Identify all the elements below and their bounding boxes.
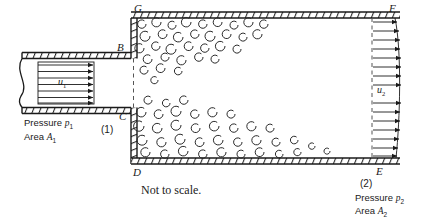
pipe-break-edge xyxy=(19,59,23,108)
point-label-D: D xyxy=(133,166,141,180)
inlet-area-subscript: 1 xyxy=(53,137,57,144)
section-label-2: (2) xyxy=(360,178,372,191)
point-label-E: E xyxy=(376,165,383,179)
point-label-F: F xyxy=(389,2,396,16)
outlet-velocity-subscript: 2 xyxy=(382,90,385,97)
outlet-velocity-label: u2 xyxy=(377,84,385,98)
point-label-B: B xyxy=(117,41,124,55)
outlet-pressure-text: Pressure xyxy=(355,192,393,203)
outlet-area-annotation: Area A2 xyxy=(355,205,387,219)
inlet-velocity-subscript: 1 xyxy=(63,82,66,89)
outlet-area-text: Area xyxy=(355,205,375,216)
inlet-pressure-annotation: Pressure p1 xyxy=(24,117,73,131)
point-label-G: G xyxy=(134,2,142,16)
outlet-pressure-subscript: 2 xyxy=(400,198,404,205)
inlet-pressure-text: Pressure xyxy=(24,117,62,128)
inlet-area-text: Area xyxy=(24,131,44,142)
duct-walls xyxy=(22,12,400,164)
outlet-pressure-annotation: Pressure p2 xyxy=(355,192,404,206)
inlet-pressure-subscript: 1 xyxy=(69,123,73,130)
inlet-area-annotation: Area A1 xyxy=(24,131,56,145)
eddy-region-lower xyxy=(134,96,330,158)
point-label-C: C xyxy=(119,110,127,124)
inlet-velocity-label: u1 xyxy=(58,76,66,90)
outlet-area-subscript: 2 xyxy=(384,211,388,218)
not-to-scale-note: Not to scale. xyxy=(141,183,201,198)
figure-canvas: G B C D F E (1) (2) u1 u2 Pressure p1 Ar… xyxy=(0,0,430,220)
eddy-region-upper xyxy=(135,17,268,83)
section-label-1: (1) xyxy=(101,124,113,137)
